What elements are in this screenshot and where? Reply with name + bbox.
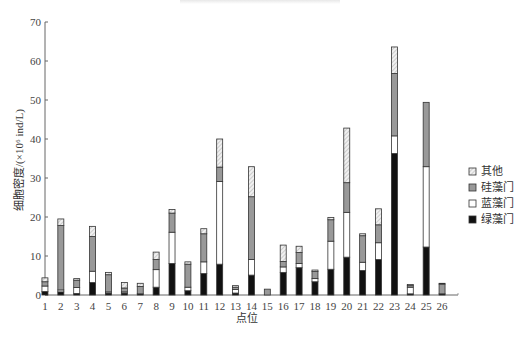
bar-segment [344, 257, 350, 295]
bar-segment [376, 260, 382, 295]
x-tick-label: 8 [153, 300, 159, 312]
bar-segment [201, 262, 207, 274]
stacked-bar-chart: 010203040506070 123456789101112131415161… [0, 0, 521, 342]
bar-stack [423, 102, 429, 295]
y-axis: 010203040506070 [30, 16, 48, 301]
bar-segment [217, 167, 223, 181]
bar-stack [344, 128, 350, 295]
bar-segment [280, 245, 286, 261]
bar-segment [280, 261, 286, 266]
bar-segment [58, 226, 64, 290]
bar-segment [105, 272, 111, 274]
legend-label: 绿藻门 [481, 212, 514, 225]
bar-segment [169, 213, 175, 232]
bar-segment [264, 289, 270, 295]
bar-segment [312, 279, 318, 282]
bar-segment [58, 292, 64, 295]
y-tick-label: 0 [36, 289, 42, 301]
bar-stack [248, 167, 254, 295]
x-tick-label: 11 [198, 300, 209, 312]
bar-stack [105, 272, 111, 295]
legend-swatch [469, 168, 476, 175]
bar-stack [391, 47, 397, 295]
x-tick-label: 17 [294, 300, 306, 312]
bar-stack [185, 262, 191, 295]
bar-segment [74, 280, 80, 287]
bar-stack [233, 286, 239, 295]
bar-stack [264, 289, 270, 295]
x-tick-label: 5 [106, 300, 112, 312]
x-tick-label: 13 [230, 300, 242, 312]
bar-segment [296, 268, 302, 295]
legend-swatch [469, 184, 476, 191]
bar-segment [391, 73, 397, 135]
legend-label: 蓝藻门 [481, 196, 514, 209]
bar-stack [58, 219, 64, 295]
bar-segment [137, 283, 143, 286]
bar-segment [233, 290, 239, 294]
bar-segment [391, 136, 397, 154]
bar-segment [233, 286, 239, 288]
bar-stack [312, 270, 318, 295]
bar-segment [248, 260, 254, 276]
x-tick-label: 19 [325, 300, 337, 312]
y-tick-label: 10 [30, 250, 42, 262]
bar-stack [74, 279, 80, 295]
x-tick-label: 22 [373, 300, 384, 312]
legend-swatch [469, 200, 476, 207]
bar-segment [201, 229, 207, 234]
bar-segment [153, 287, 159, 295]
bar-segment [296, 252, 302, 263]
bar-stack [376, 209, 382, 295]
bar-segment [201, 274, 207, 295]
x-tick-label: 24 [405, 300, 417, 312]
bar-segment [360, 234, 366, 236]
y-tick-label: 50 [30, 94, 42, 106]
bar-segment [153, 270, 159, 288]
bar-segment [407, 284, 413, 285]
bar-segment [407, 287, 413, 294]
bars [42, 47, 445, 295]
bar-segment [90, 237, 96, 272]
bar-segment [296, 263, 302, 267]
bar-segment [360, 262, 366, 270]
bar-segment [42, 278, 48, 282]
bar-segment [344, 183, 350, 213]
bar-segment [105, 275, 111, 292]
bar-segment [376, 243, 382, 260]
bar-segment [217, 182, 223, 265]
x-tick-label: 3 [74, 300, 80, 312]
bar-stack [360, 234, 366, 295]
x-tick-label: 18 [309, 300, 321, 312]
x-tick-label: 23 [389, 300, 401, 312]
bar-segment [360, 270, 366, 295]
y-tick-label: 70 [30, 16, 42, 28]
bar-segment [74, 279, 80, 281]
x-axis-title: 点位 [236, 311, 258, 324]
x-tick-label: 20 [341, 300, 353, 312]
x-axis: 1234567891011121314151617181920212223242… [42, 293, 458, 312]
x-tick-label: 21 [357, 300, 368, 312]
bar-segment [121, 288, 127, 292]
y-tick-label: 20 [30, 211, 42, 223]
bar-segment [90, 271, 96, 282]
bar-segment [137, 286, 143, 293]
x-tick-label: 12 [214, 300, 225, 312]
bar-stack [153, 252, 159, 295]
bar-segment [280, 267, 286, 272]
bar-stack [407, 284, 413, 295]
bar-segment [312, 282, 318, 295]
x-tick-label: 9 [169, 300, 175, 312]
x-tick-label: 7 [138, 300, 144, 312]
bar-stack [90, 226, 96, 295]
bar-segment [248, 197, 254, 260]
bar-segment [391, 47, 397, 74]
bar-segment [312, 270, 318, 272]
bar-stack [137, 283, 143, 295]
bar-stack [169, 210, 175, 295]
bar-segment [248, 275, 254, 295]
bar-segment [90, 226, 96, 236]
bar-segment [169, 232, 175, 263]
bar-segment [42, 282, 48, 286]
bar-segment [42, 286, 48, 291]
